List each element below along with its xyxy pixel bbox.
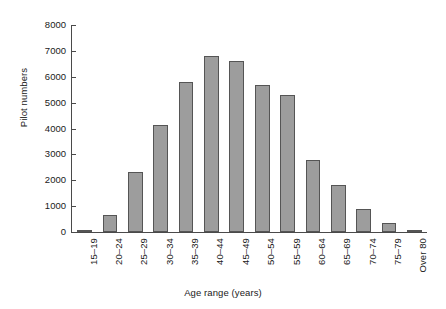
bar-slot: [407, 25, 422, 232]
y-axis-tick: [71, 232, 76, 233]
x-axis-tick-label: 60–64: [317, 238, 327, 265]
x-axis-tick-label: 35–39: [190, 238, 200, 265]
x-axis-tick-label: 75–79: [393, 238, 403, 265]
bar: [229, 61, 244, 232]
x-axis-tick-label: 15–19: [89, 238, 99, 265]
x-axis-tick-label: 50–54: [266, 238, 276, 265]
bar-chart: Pilot numbers 01000200030004000500060007…: [0, 0, 446, 309]
bar-slot: [280, 25, 295, 232]
bar-slot: [153, 25, 168, 232]
bar-slot: [103, 25, 118, 232]
x-axis-tick-label: 40–44: [215, 238, 225, 265]
bar: [331, 185, 346, 232]
bar-slot: [204, 25, 219, 232]
bar: [382, 223, 397, 232]
bar-slot: [229, 25, 244, 232]
bar-slot: [306, 25, 321, 232]
y-axis-tick-label: 0: [14, 227, 66, 237]
x-axis-line: [71, 232, 427, 233]
y-axis-tick-label: 6000: [14, 72, 66, 82]
bar: [179, 82, 194, 232]
bar: [77, 230, 92, 232]
x-axis-tick-label: Over 80: [418, 238, 428, 273]
y-axis-tick-label: 5000: [14, 98, 66, 108]
bar: [153, 125, 168, 232]
x-axis-title: Age range (years): [0, 287, 446, 298]
x-axis-tick-label: 55–59: [292, 238, 302, 265]
bar-slot: [255, 25, 270, 232]
bar-slot: [382, 25, 397, 232]
bar-slot: [356, 25, 371, 232]
x-axis-tick-label: 25–29: [139, 238, 149, 265]
bar-slot: [179, 25, 194, 232]
x-axis-tick-label: 45–49: [241, 238, 251, 265]
bar: [103, 215, 118, 232]
bar: [356, 209, 371, 232]
bar-slot: [331, 25, 346, 232]
y-axis-tick-label: 3000: [14, 149, 66, 159]
x-axis-tick-label: 20–24: [114, 238, 124, 265]
x-axis-tick-label: 65–69: [342, 238, 352, 265]
bar-slot: [77, 25, 92, 232]
x-axis-tick-label: 30–34: [165, 238, 175, 265]
x-axis-tick-label: 70–74: [368, 238, 378, 265]
bar: [255, 85, 270, 232]
y-axis-tick-label: 2000: [14, 175, 66, 185]
bar-slot: [128, 25, 143, 232]
bar: [128, 172, 143, 232]
y-axis-tick-label: 1000: [14, 201, 66, 211]
y-axis-tick-label: 7000: [14, 46, 66, 56]
y-axis-tick-label: 8000: [14, 20, 66, 30]
y-axis-tick-label: 4000: [14, 124, 66, 134]
bar: [280, 95, 295, 232]
plot-area: [72, 25, 427, 232]
bar: [204, 56, 219, 232]
bar: [407, 230, 422, 232]
bar: [306, 160, 321, 232]
